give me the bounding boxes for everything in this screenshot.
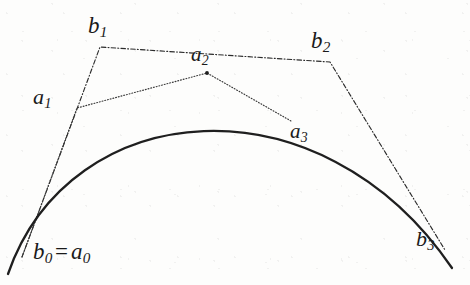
control-polygon-a <box>22 73 291 257</box>
label-b1: b1 <box>88 14 107 37</box>
control-polygon-b <box>22 47 445 257</box>
label-b2: b2 <box>311 29 330 52</box>
label-a3: a3 <box>290 121 308 142</box>
bezier-figure: b1 b2 a2 a1 a3 b3 b0=a0 <box>0 0 470 285</box>
label-b0-equals-a0: b0=a0 <box>33 240 90 263</box>
label-a2: a2 <box>191 44 209 65</box>
label-b3: b3 <box>416 228 434 250</box>
label-a1: a1 <box>33 86 51 108</box>
vertex-dot-a2 <box>205 71 209 75</box>
